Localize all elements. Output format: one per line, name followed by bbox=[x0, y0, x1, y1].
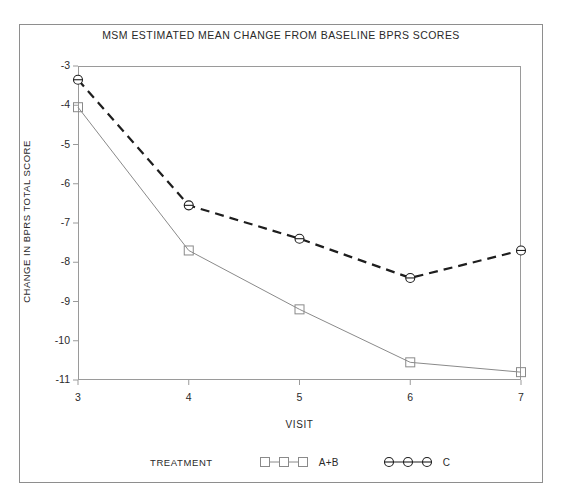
y-tick-label: -11 bbox=[30, 373, 70, 385]
legend-item-c: C bbox=[379, 454, 451, 470]
chart-title: MSM ESTIMATED MEAN CHANGE FROM BASELINE … bbox=[19, 29, 543, 41]
x-tick-label: 5 bbox=[285, 391, 315, 403]
legend-item-a-b: A+B bbox=[255, 454, 339, 470]
x-axis-title: VISIT bbox=[78, 419, 521, 430]
chart-legend: TREATMENT A+BC bbox=[150, 452, 450, 472]
y-tick-label: -4 bbox=[30, 98, 70, 110]
legend-label: C bbox=[443, 457, 451, 468]
y-tick-label: -9 bbox=[30, 295, 70, 307]
legend-label: A+B bbox=[319, 457, 339, 468]
legend-entries: A+BC bbox=[213, 454, 451, 470]
x-tick-label: 6 bbox=[395, 391, 425, 403]
legend-key-square bbox=[255, 454, 313, 470]
y-tick-label: -8 bbox=[30, 255, 70, 267]
y-tick-label: -7 bbox=[30, 216, 70, 228]
y-tick-label: -10 bbox=[30, 334, 70, 346]
plot-area bbox=[78, 66, 521, 380]
y-tick-label: -5 bbox=[30, 138, 70, 150]
y-tick-label: -3 bbox=[30, 59, 70, 71]
legend-key-circle bbox=[379, 454, 437, 470]
x-tick-label: 4 bbox=[174, 391, 204, 403]
x-tick-label: 7 bbox=[506, 391, 536, 403]
chart-figure: MSM ESTIMATED MEAN CHANGE FROM BASELINE … bbox=[0, 0, 561, 504]
legend-title: TREATMENT bbox=[150, 457, 213, 468]
x-tick-label: 3 bbox=[63, 391, 93, 403]
y-tick-label: -6 bbox=[30, 177, 70, 189]
